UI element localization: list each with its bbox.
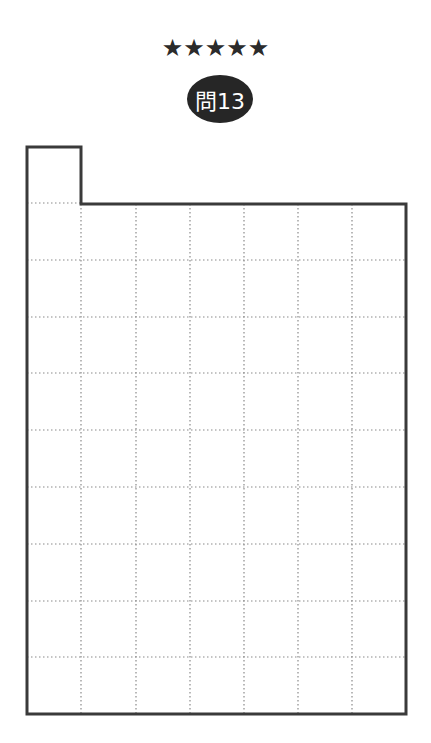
grid-dotted-lines [27,203,406,713]
puzzle-grid [0,0,431,743]
